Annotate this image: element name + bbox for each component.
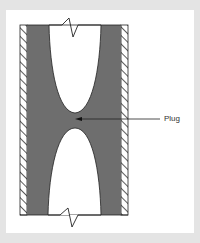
- left-wall: [20, 25, 27, 215]
- right-wall: [121, 25, 128, 215]
- plug-label: Plug: [164, 114, 180, 123]
